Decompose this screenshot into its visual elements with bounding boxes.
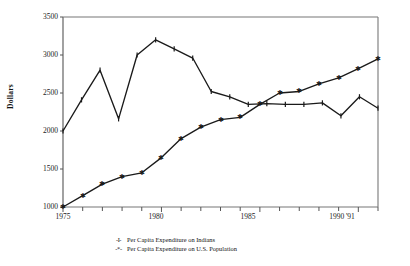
svg-text:✱: ✱	[158, 154, 164, 162]
svg-text:✱: ✱	[139, 169, 145, 177]
svg-text:✱: ✱	[257, 100, 263, 108]
legend-marker-star-icon: -*-	[112, 244, 125, 253]
chart-legend: -I- Per Capita Expenditure on Indians -*…	[112, 235, 237, 253]
svg-text:✱: ✱	[296, 87, 302, 95]
legend-label-indians: Per Capita Expenditure on Indians	[127, 235, 215, 244]
svg-text:✱: ✱	[316, 80, 322, 88]
x-axis-ticks	[63, 207, 378, 212]
svg-text:✱: ✱	[80, 192, 86, 200]
svg-text:✱: ✱	[375, 55, 381, 63]
legend-item-us-population: -*- Per Capita Expenditure on U.S. Popul…	[112, 244, 237, 253]
svg-text:✱: ✱	[178, 135, 184, 143]
series-line-us-population: ✱✱✱✱✱✱✱✱✱✱✱✱✱✱✱✱✱	[60, 55, 381, 211]
legend-label-us-population: Per Capita Expenditure on U.S. Populatio…	[127, 244, 237, 253]
svg-text:✱: ✱	[237, 113, 243, 121]
svg-text:✱: ✱	[60, 203, 66, 211]
svg-text:✱: ✱	[336, 74, 342, 82]
chart-figure: Dollars 3500 3000 2500 2000 1500 1000 19…	[0, 0, 410, 266]
svg-text:✱: ✱	[218, 116, 224, 124]
svg-text:✱: ✱	[355, 65, 361, 73]
plot-area: ✱✱✱✱✱✱✱✱✱✱✱✱✱✱✱✱✱	[0, 0, 410, 266]
legend-item-indians: -I- Per Capita Expenditure on Indians	[112, 235, 237, 244]
svg-text:✱: ✱	[119, 173, 125, 181]
svg-text:✱: ✱	[277, 89, 283, 97]
axis-lines	[63, 17, 378, 207]
svg-text:✱: ✱	[99, 180, 105, 188]
legend-marker-bar-icon: -I-	[112, 235, 125, 244]
svg-text:✱: ✱	[198, 123, 204, 131]
